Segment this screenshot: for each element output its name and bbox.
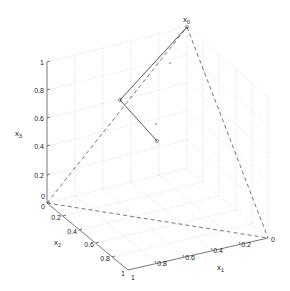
svg-text:1: 1	[131, 274, 135, 281]
svg-text:0.4: 0.4	[213, 247, 223, 254]
svg-text:0.4: 0.4	[67, 228, 77, 235]
svg-text:0.2: 0.2	[51, 214, 61, 221]
x1-axis-label: x1	[217, 263, 224, 273]
svg-text:0.6: 0.6	[34, 115, 44, 122]
path-point-markers	[119, 26, 189, 143]
grid-lines	[47, 27, 268, 263]
iteration-path	[119, 26, 189, 143]
svg-text:0.2: 0.2	[34, 172, 44, 179]
svg-text:1: 1	[121, 270, 125, 277]
x3-tick-labels: 1 0.8 0.6 0.4 0.2 0	[34, 59, 45, 200]
x3-axis-label: x3	[15, 129, 22, 139]
axes	[47, 61, 268, 270]
svg-text:0.8: 0.8	[100, 255, 110, 262]
svg-text:1: 1	[40, 59, 44, 66]
svg-text:0: 0	[41, 203, 45, 210]
x1-tick-labels: 1 0.8 0.6 0.4 0.2 0	[131, 236, 275, 281]
svg-text:0: 0	[41, 193, 45, 200]
3d-simplex-plot: 1 0.8 0.6 0.4 0.2 0 x3 0 0.2 0.4 0.6 0.8…	[0, 0, 290, 291]
svg-text:0.2: 0.2	[241, 241, 251, 248]
scatter-markers	[155, 62, 170, 124]
x2-axis-label: x2	[54, 238, 61, 248]
svg-text:0.4: 0.4	[34, 143, 44, 150]
svg-text:0.8: 0.8	[34, 87, 44, 94]
svg-text:0.6: 0.6	[185, 254, 195, 261]
svg-text:0: 0	[271, 236, 275, 243]
svg-text:0.8: 0.8	[157, 260, 167, 267]
start-point-label: x0	[183, 15, 190, 25]
svg-text:0.6: 0.6	[84, 241, 94, 248]
